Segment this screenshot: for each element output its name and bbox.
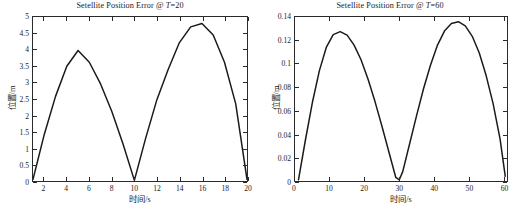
y-axis-tick — [33, 66, 37, 67]
x-axis-tick — [248, 177, 249, 181]
y-axis-tick — [503, 40, 507, 41]
x-axis-tick — [112, 177, 113, 181]
y-axis-tick — [295, 63, 299, 64]
y-axis-tick — [503, 135, 507, 136]
y-tick-label: 0 — [0, 178, 29, 187]
x-axis-tick — [248, 17, 249, 21]
x-axis-tick — [399, 17, 400, 21]
x-axis-tick — [469, 17, 470, 21]
y-axis-tick — [295, 182, 299, 183]
y-axis-tick — [503, 158, 507, 159]
y-axis-tick — [503, 87, 507, 88]
y-tick-label: 0.04 — [260, 130, 291, 139]
y-axis-tick — [503, 182, 507, 183]
y-axis-tick — [243, 99, 247, 100]
y-axis-tick — [243, 132, 247, 133]
y-tick-label: 4.5 — [0, 28, 29, 37]
x-axis-tick — [203, 177, 204, 181]
y-axis-tick — [243, 82, 247, 83]
x-axis-tick — [364, 17, 365, 21]
plot-area-right — [294, 16, 508, 182]
chart-title-right: Setellite Position Error @ T=60 — [260, 1, 520, 10]
y-axis-tick — [295, 16, 299, 17]
y-tick-label: 1 — [0, 144, 29, 153]
y-axis-tick — [33, 165, 37, 166]
y-axis-tick — [243, 182, 247, 183]
y-axis-tick — [33, 99, 37, 100]
y-axis-tick — [33, 33, 37, 34]
y-axis-tick — [33, 16, 37, 17]
y-axis-tick — [503, 111, 507, 112]
x-axis-tick — [434, 17, 435, 21]
y-axis-title-right: 位置/m — [269, 70, 281, 126]
x-axis-tick — [203, 17, 204, 21]
y-tick-label: 3.5 — [0, 61, 29, 70]
chart-title-right-value: =60 — [430, 1, 443, 10]
x-axis-tick — [89, 177, 90, 181]
y-axis-tick — [243, 33, 247, 34]
x-axis-tick — [329, 17, 330, 21]
y-tick-label: 0.1 — [260, 59, 291, 68]
x-axis-tick — [364, 177, 365, 181]
y-axis-tick — [243, 116, 247, 117]
x-axis-tick — [66, 177, 67, 181]
y-tick-label: 0.12 — [260, 35, 291, 44]
y-axis-tick — [295, 158, 299, 159]
x-axis-tick — [180, 17, 181, 21]
chart-title-left-value: =20 — [170, 1, 183, 10]
x-axis-tick — [134, 177, 135, 181]
x-axis-tick — [134, 17, 135, 21]
y-tick-label: 0.5 — [0, 161, 29, 170]
y-tick-label: 5 — [0, 12, 29, 21]
y-axis-tick — [33, 182, 37, 183]
x-axis-tick — [180, 177, 181, 181]
chart-title-left: Setellite Position Error @ T=20 — [0, 1, 260, 10]
chart-title-right-main: Setellite Position Error @ — [336, 1, 425, 10]
y-axis-tick — [33, 132, 37, 133]
chart-panel-left: Setellite Position Error @ T=20 00.511.5… — [0, 0, 260, 209]
chart-panel-right: Setellite Position Error @ T=60 00.020.0… — [260, 0, 520, 209]
y-axis-tick — [33, 149, 37, 150]
x-axis-tick — [434, 177, 435, 181]
x-axis-tick — [112, 17, 113, 21]
y-axis-tick — [33, 82, 37, 83]
x-axis-tick — [329, 177, 330, 181]
x-axis-tick — [43, 17, 44, 21]
y-axis-tick — [503, 63, 507, 64]
y-tick-label: 0.14 — [260, 12, 291, 21]
y-axis-tick — [295, 40, 299, 41]
x-axis-title-right: 时间/s — [294, 192, 508, 204]
y-axis-tick — [243, 66, 247, 67]
y-axis-tick — [33, 49, 37, 50]
data-line-right — [295, 17, 507, 181]
x-axis-tick — [504, 177, 505, 181]
x-axis-tick — [225, 177, 226, 181]
x-axis-tick — [89, 17, 90, 21]
y-axis-tick — [243, 16, 247, 17]
y-axis-title-left: 位置/m — [5, 70, 17, 126]
x-axis-tick — [43, 177, 44, 181]
x-axis-tick — [225, 17, 226, 21]
y-axis-tick — [33, 116, 37, 117]
x-axis-tick — [157, 17, 158, 21]
y-axis-tick — [295, 87, 299, 88]
y-tick-label: 4 — [0, 45, 29, 54]
x-axis-tick — [157, 177, 158, 181]
y-tick-label: 0 — [260, 178, 291, 187]
x-axis-tick — [399, 177, 400, 181]
y-axis-tick — [243, 49, 247, 50]
y-axis-tick — [243, 165, 247, 166]
y-tick-label: 1.5 — [0, 128, 29, 137]
y-axis-tick — [295, 111, 299, 112]
y-axis-tick — [243, 149, 247, 150]
x-axis-title-left: 时间/s — [32, 192, 248, 204]
x-axis-tick — [294, 177, 295, 181]
y-tick-label: 0.02 — [260, 154, 291, 163]
y-axis-tick — [295, 135, 299, 136]
data-line-left — [33, 17, 247, 181]
x-axis-tick — [504, 17, 505, 21]
x-axis-tick — [294, 17, 295, 21]
chart-title-left-main: Setellite Position Error @ — [76, 1, 165, 10]
plot-area-left — [32, 16, 248, 182]
x-axis-tick — [469, 177, 470, 181]
